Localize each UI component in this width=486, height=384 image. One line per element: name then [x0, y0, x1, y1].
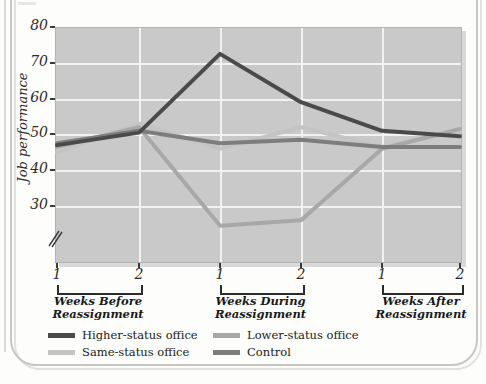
y-tick-mark [50, 62, 55, 64]
legend-item-control[interactable]: Control [213, 345, 378, 359]
plot-wrapper [0, 0, 486, 384]
x-tick-label: 2 [297, 266, 306, 282]
chart-page: 807060504030 Job performance 121212 Week… [0, 0, 486, 384]
legend-swatch [213, 333, 240, 338]
legend-row: Higher-status office Lower-status office [48, 328, 378, 342]
x-tick-mark [138, 263, 140, 268]
legend-label: Lower-status office [247, 328, 359, 342]
x-tick-mark [219, 263, 221, 268]
x-tick-label: 1 [378, 266, 387, 282]
x-tick-label: 1 [216, 266, 225, 282]
x-tick-label: 1 [53, 266, 62, 282]
y-tick-label: 80 [14, 17, 48, 33]
x-tick-label: 2 [456, 266, 465, 282]
x-tick-mark [459, 263, 461, 268]
legend-swatch [48, 333, 75, 338]
legend-item-lower-status-office[interactable]: Lower-status office [213, 328, 378, 342]
legend-item-same-status-office[interactable]: Same-status office [48, 345, 213, 359]
x-tick-mark [300, 263, 302, 268]
legend-label: Higher-status office [82, 328, 198, 342]
legend-label: Control [247, 345, 291, 359]
y-tick-mark [50, 133, 55, 135]
group-label: Weeks During Reassignment [215, 295, 306, 321]
y-tick-mark [50, 169, 55, 171]
y-tick-mark [50, 98, 55, 100]
y-tick-mark [50, 26, 55, 28]
y-tick-label: 70 [14, 53, 48, 69]
group-label: Weeks After Reassignment [375, 295, 466, 321]
x-tick-mark [381, 263, 383, 268]
legend-label: Same-status office [82, 345, 189, 359]
y-tick-mark [50, 205, 55, 207]
axis-break-icon [47, 228, 63, 250]
legend-row: Same-status office Control [48, 345, 378, 359]
group-label: Weeks Before Reassignment [52, 295, 143, 321]
legend-swatch [213, 350, 240, 355]
series-lines [55, 27, 462, 263]
legend-swatch [48, 350, 75, 355]
x-tick-label: 2 [135, 266, 144, 282]
x-tick-mark [56, 263, 58, 268]
chart-legend: Higher-status office Lower-status office… [48, 328, 378, 362]
y-tick-label: 30 [14, 196, 48, 212]
y-axis-label: Job performance [15, 68, 30, 188]
legend-item-higher-status-office[interactable]: Higher-status office [48, 328, 213, 342]
